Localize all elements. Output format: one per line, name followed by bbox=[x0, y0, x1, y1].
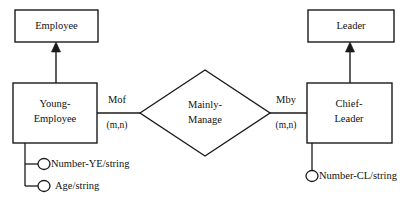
role-label-mof: Mof bbox=[108, 94, 127, 105]
entity-young-employee-label-line1: Young- bbox=[39, 98, 71, 109]
attribute-number-ye-ellipse[interactable] bbox=[38, 159, 50, 170]
attribute-number-cl[interactable]: Number-CL/string bbox=[306, 170, 398, 182]
entity-employee[interactable]: Employee bbox=[15, 10, 98, 42]
entity-leader[interactable]: Leader bbox=[308, 10, 394, 42]
attribute-number-ye-label: Number-YE/string bbox=[51, 158, 130, 169]
entity-chief-leader-label-line1: Chief- bbox=[336, 98, 363, 109]
generalization-chief-leader-to-leader bbox=[346, 42, 355, 83]
entity-leader-label: Leader bbox=[336, 20, 366, 31]
cardinality-label-mof: (m,n) bbox=[107, 120, 128, 131]
attribute-number-ye[interactable]: Number-YE/string bbox=[38, 158, 130, 170]
relationship-mainly-manage-label-line2: Manage bbox=[188, 114, 222, 125]
isa-arrowhead-left bbox=[52, 42, 61, 52]
attribute-age-label: Age/string bbox=[55, 180, 100, 191]
cardinality-label-mby: (m,n) bbox=[276, 120, 297, 131]
er-diagram-svg: Employee Young- Employee Leader Chief- L… bbox=[0, 0, 415, 204]
isa-arrowhead-right bbox=[346, 42, 355, 52]
relationship-mainly-manage-label-line1: Mainly- bbox=[188, 99, 222, 110]
relationship-mainly-manage-diamond[interactable] bbox=[140, 70, 270, 156]
er-diagram-canvas: Employee Young- Employee Leader Chief- L… bbox=[0, 0, 415, 204]
attribute-number-cl-label: Number-CL/string bbox=[319, 170, 398, 181]
entity-employee-label: Employee bbox=[35, 20, 78, 31]
entity-chief-leader-label-line2: Leader bbox=[334, 113, 364, 124]
attribute-connectors-young-employee bbox=[25, 143, 38, 186]
generalization-young-employee-to-employee bbox=[52, 42, 61, 83]
relationship-mainly-manage[interactable]: Mainly- Manage bbox=[140, 70, 270, 156]
attribute-age-ellipse[interactable] bbox=[38, 181, 50, 192]
attribute-number-cl-ellipse[interactable] bbox=[306, 171, 318, 182]
role-label-mby: Mby bbox=[276, 94, 297, 105]
entity-chief-leader[interactable]: Chief- Leader bbox=[307, 83, 392, 143]
entity-young-employee[interactable]: Young- Employee bbox=[13, 83, 97, 143]
attribute-age[interactable]: Age/string bbox=[38, 180, 100, 192]
entity-young-employee-label-line2: Employee bbox=[34, 113, 77, 124]
